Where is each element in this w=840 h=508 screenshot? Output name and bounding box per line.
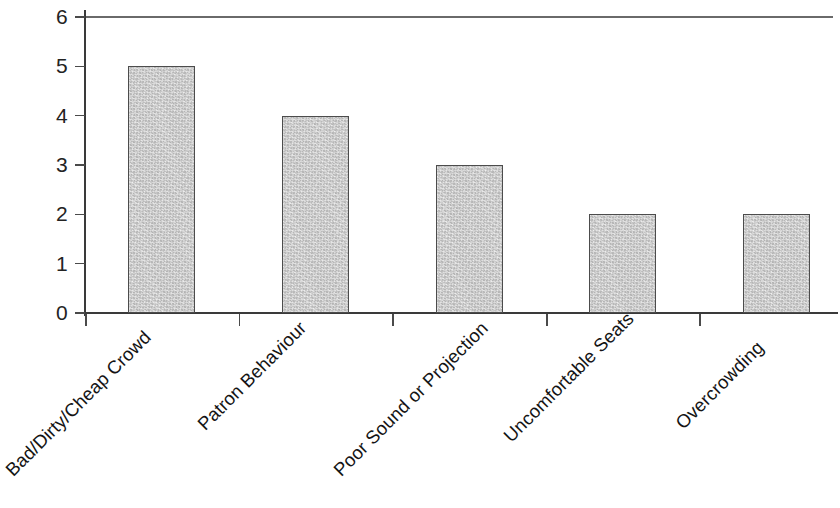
bar: [128, 66, 195, 313]
bar-chart: 6543210 Bad/Dirty/Cheap CrowdPatron Beha…: [0, 0, 840, 508]
bar-fill-texture: [437, 166, 502, 312]
bar: [282, 116, 349, 313]
bar: [589, 214, 656, 313]
bar-fill-texture: [590, 215, 655, 312]
bar-fill-texture: [129, 67, 194, 312]
bar-fill-texture: [744, 215, 809, 312]
bar: [436, 165, 503, 313]
bar: [743, 214, 810, 313]
bar-series: [0, 0, 840, 508]
bar-fill-texture: [283, 117, 348, 312]
